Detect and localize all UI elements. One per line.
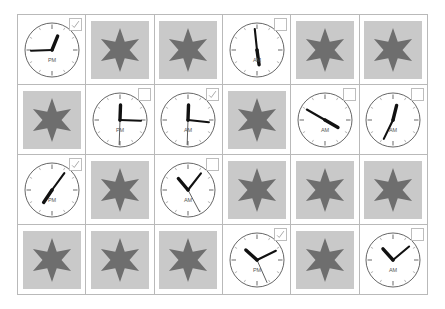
clock-cell[interactable]: AM — [223, 15, 291, 85]
clock-cell[interactable]: AM — [360, 225, 428, 295]
star-cell[interactable] — [86, 225, 154, 295]
star-tile — [159, 231, 217, 289]
checkbox-empty[interactable] — [206, 158, 219, 171]
clock-cell[interactable]: PM — [223, 225, 291, 295]
checkbox-checked[interactable] — [206, 88, 219, 101]
star-cell[interactable] — [155, 15, 223, 85]
six-point-star-icon — [165, 237, 211, 283]
checkbox-empty[interactable] — [138, 88, 151, 101]
check-mark-icon — [207, 89, 218, 100]
checkbox-checked[interactable] — [69, 18, 82, 31]
six-point-star-icon — [234, 97, 280, 143]
checkbox-empty[interactable] — [411, 228, 424, 241]
star-cell[interactable] — [360, 155, 428, 225]
meridiem-label: AM — [389, 267, 398, 273]
clock-cell[interactable]: AM — [155, 85, 223, 155]
meridiem-label: AM — [321, 127, 330, 133]
check-mark-icon — [275, 229, 286, 240]
star-cell[interactable] — [18, 225, 86, 295]
six-point-star-icon — [370, 167, 416, 213]
six-point-star-icon — [97, 237, 143, 283]
star-cell[interactable] — [360, 15, 428, 85]
six-point-star-icon — [370, 27, 416, 73]
meridiem-label: PM — [116, 127, 125, 133]
star-tile — [91, 21, 149, 79]
six-point-star-icon — [29, 97, 75, 143]
six-point-star-icon — [234, 167, 280, 213]
star-tile — [296, 21, 354, 79]
checkbox-empty[interactable] — [274, 18, 287, 31]
six-point-star-icon — [97, 167, 143, 213]
clock-cell[interactable]: AM — [291, 85, 359, 155]
star-cell[interactable] — [291, 225, 359, 295]
clock-cell[interactable]: PM — [86, 85, 154, 155]
checkbox-empty[interactable] — [411, 88, 424, 101]
star-tile — [23, 91, 81, 149]
check-mark-icon — [70, 19, 81, 30]
meridiem-label: AM — [253, 57, 262, 63]
star-tile — [91, 231, 149, 289]
meridiem-label: AM — [184, 127, 193, 133]
checkbox-checked[interactable] — [274, 228, 287, 241]
meridiem-label: PM — [253, 267, 262, 273]
clock-cell[interactable]: PM — [18, 155, 86, 225]
star-cell[interactable] — [18, 85, 86, 155]
clock-cell[interactable]: AM — [155, 155, 223, 225]
six-point-star-icon — [97, 27, 143, 73]
star-tile — [364, 21, 422, 79]
cell-grid: PMAMPMAMAMAMPMAMPMAM — [17, 14, 428, 295]
star-cell[interactable] — [291, 155, 359, 225]
checkbox-empty[interactable] — [343, 88, 356, 101]
six-point-star-icon — [302, 237, 348, 283]
star-tile — [364, 161, 422, 219]
star-tile — [228, 91, 286, 149]
six-point-star-icon — [302, 27, 348, 73]
star-tile — [228, 161, 286, 219]
checkbox-checked[interactable] — [69, 158, 82, 171]
meridiem-label: AM — [184, 197, 193, 203]
star-cell[interactable] — [155, 225, 223, 295]
star-tile — [296, 231, 354, 289]
six-point-star-icon — [165, 27, 211, 73]
star-cell[interactable] — [223, 155, 291, 225]
meridiem-label: PM — [48, 57, 57, 63]
six-point-star-icon — [29, 237, 75, 283]
star-tile — [296, 161, 354, 219]
star-tile — [159, 21, 217, 79]
clock-cell[interactable]: PM — [18, 15, 86, 85]
check-mark-icon — [70, 159, 81, 170]
star-cell[interactable] — [223, 85, 291, 155]
worksheet-sheet: PMAMPMAMAMAMPMAMPMAM — [0, 0, 445, 309]
star-tile — [23, 231, 81, 289]
six-point-star-icon — [302, 167, 348, 213]
meridiem-label: PM — [48, 197, 57, 203]
star-tile — [91, 161, 149, 219]
star-cell[interactable] — [86, 15, 154, 85]
star-cell[interactable] — [291, 15, 359, 85]
clock-cell[interactable]: AM — [360, 85, 428, 155]
meridiem-label: AM — [389, 127, 398, 133]
star-cell[interactable] — [86, 155, 154, 225]
